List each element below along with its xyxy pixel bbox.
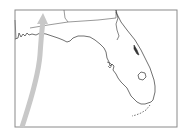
florida-map: [0, 0, 184, 136]
